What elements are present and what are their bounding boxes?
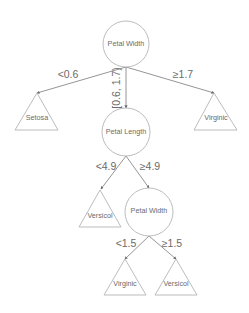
edge-label-gte-1-7: ≥1.7 <box>173 68 194 80</box>
edge-label-gte-1-5: ≥1.5 <box>162 237 183 249</box>
edge-labels: <0.6 [0.6, 1.7) ≥1.7 <4.9 ≥4.9 <1.5 ≥1.5 <box>58 67 194 249</box>
leaf-virginic-bottom: Virginic <box>104 259 146 295</box>
edge-label-gte-4-9: ≥4.9 <box>140 160 161 172</box>
edge-label-lt-1-5: <1.5 <box>116 237 137 249</box>
node-root: Petal Width <box>103 21 149 67</box>
leaf-virginic-top-label: Virginic <box>204 113 228 122</box>
edge-label-lt-0-6: <0.6 <box>58 68 79 80</box>
leaf-versicol-bottom-triangle <box>155 259 197 295</box>
leaf-setosa-label: Setosa <box>26 113 48 122</box>
edge-root-to-virginic <box>126 67 214 93</box>
edge-label-0-6-to-1-7: [0.6, 1.7) <box>110 67 122 108</box>
node-root-label: Petal Width <box>108 39 145 48</box>
leaf-virginic-top: Virginic <box>194 93 237 130</box>
node-petal-length: Petal Length <box>102 108 150 156</box>
leaf-versicol-bottom: Versicol <box>155 259 197 295</box>
leaf-virginic-bottom-triangle <box>104 259 146 295</box>
leaf-setosa: Setosa <box>15 93 58 130</box>
leaf-virginic-bottom-label: Virginic <box>113 279 137 288</box>
edges <box>37 67 214 259</box>
leaf-versicol-mid: Versicol <box>79 190 121 227</box>
leaf-virginic-top-triangle <box>194 93 237 130</box>
node-petal-width-2-label: Petal Width <box>131 206 168 215</box>
leaf-versicol-mid-label: Versicol <box>87 211 113 220</box>
node-petal-length-label: Petal Length <box>106 127 146 136</box>
leaf-versicol-bottom-label: Versicol <box>163 279 189 288</box>
decision-tree-diagram: <0.6 [0.6, 1.7) ≥1.7 <4.9 ≥4.9 <1.5 ≥1.5… <box>0 0 249 313</box>
edge-label-lt-4-9: <4.9 <box>96 160 117 172</box>
leaf-setosa-triangle <box>15 93 58 130</box>
leaf-versicol-mid-triangle <box>79 190 121 227</box>
node-petal-width-2: Petal Width <box>125 188 173 236</box>
